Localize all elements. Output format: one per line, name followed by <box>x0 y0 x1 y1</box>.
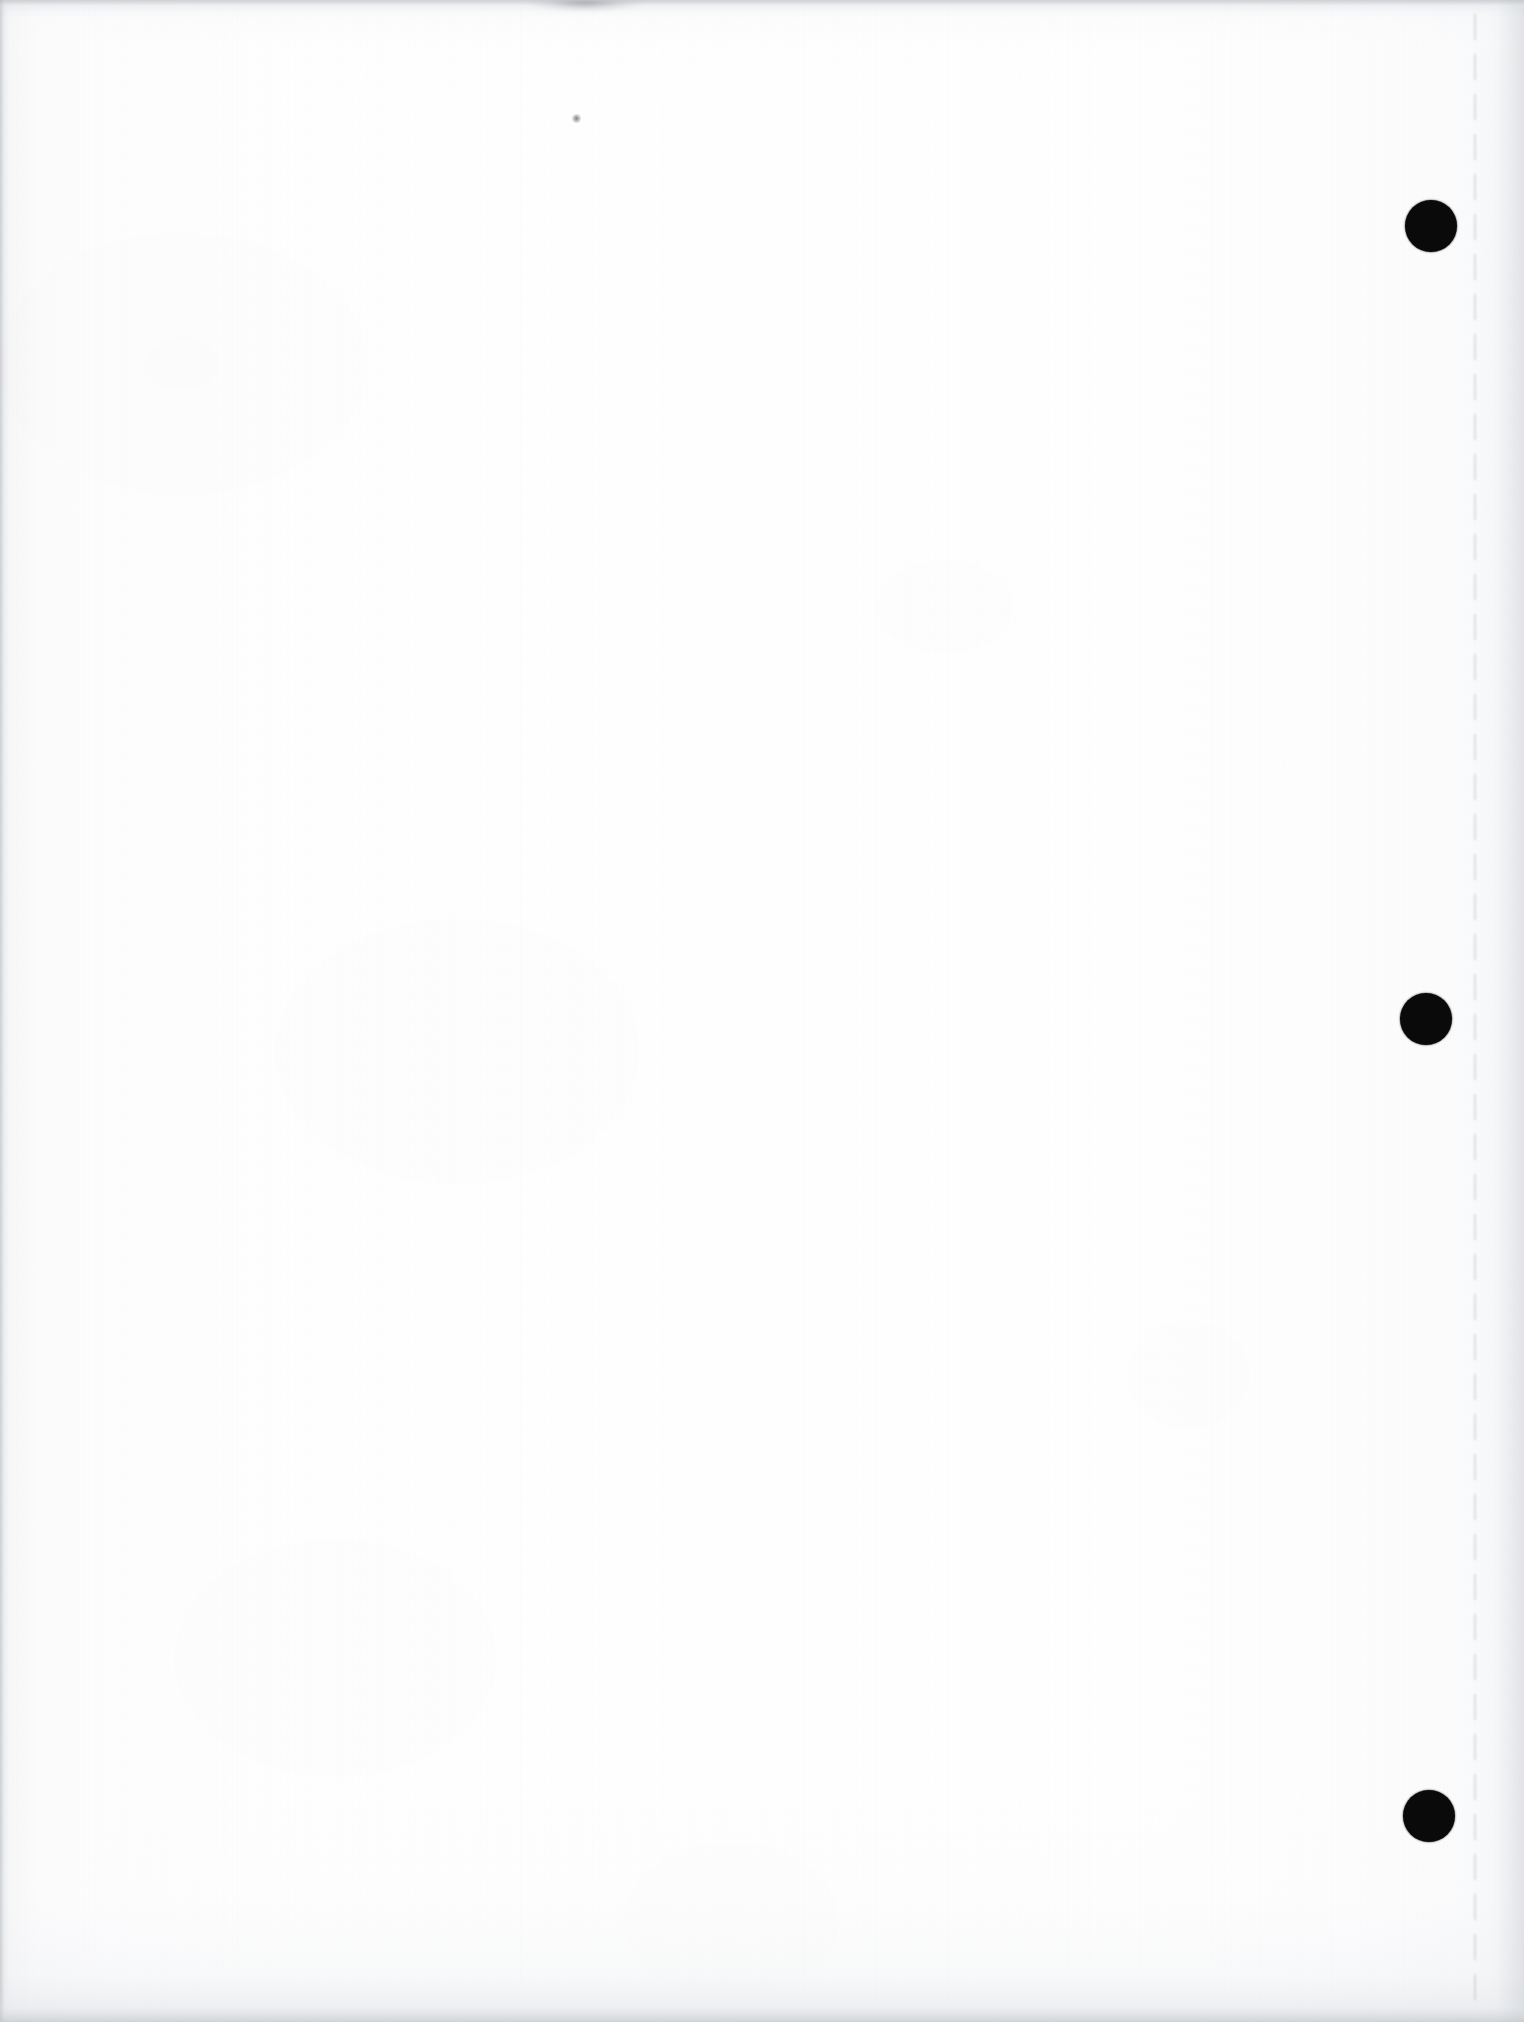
paper-speck <box>572 114 581 123</box>
registration-dot-bottom <box>1403 1790 1455 1842</box>
top-edge-smudge <box>520 0 650 16</box>
vertical-crease-line <box>1474 14 1476 2014</box>
top-edge-scan-band <box>0 0 1524 12</box>
bottom-edge-shadow <box>0 1996 1524 2022</box>
right-edge-shadow <box>1469 0 1524 2022</box>
registration-dot-top <box>1405 200 1457 252</box>
registration-dot-middle <box>1400 993 1452 1045</box>
left-edge-shadow <box>0 0 9 2022</box>
paper-vertical-shading <box>0 0 1524 2022</box>
scanned-page <box>0 0 1524 2022</box>
